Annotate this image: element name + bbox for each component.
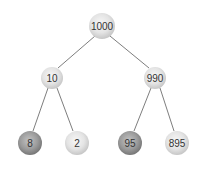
node-label: 95 bbox=[124, 138, 136, 149]
edge-10-8 bbox=[33, 88, 48, 131]
tree-node-left-left: 8 bbox=[18, 131, 42, 155]
tree-node-right-right: 895 bbox=[165, 131, 189, 155]
node-label: 10 bbox=[46, 73, 58, 84]
edge-1000-10 bbox=[58, 36, 95, 68]
edge-990-95 bbox=[134, 88, 151, 131]
node-label: 8 bbox=[27, 138, 33, 149]
node-label: 895 bbox=[169, 138, 186, 149]
edge-1000-990 bbox=[110, 36, 149, 68]
tree-node-right: 990 bbox=[144, 67, 166, 89]
tree-node-root: 1000 bbox=[89, 13, 115, 39]
node-label: 990 bbox=[147, 73, 164, 84]
node-label: 2 bbox=[74, 138, 80, 149]
edge-10-2 bbox=[57, 88, 73, 131]
tree-diagram: 1000 10 990 8 2 95 895 bbox=[0, 0, 205, 169]
tree-node-left: 10 bbox=[41, 67, 63, 89]
edge-990-895 bbox=[160, 88, 174, 131]
tree-node-left-right: 2 bbox=[65, 131, 89, 155]
tree-node-right-left: 95 bbox=[118, 131, 142, 155]
node-label: 1000 bbox=[91, 21, 114, 32]
